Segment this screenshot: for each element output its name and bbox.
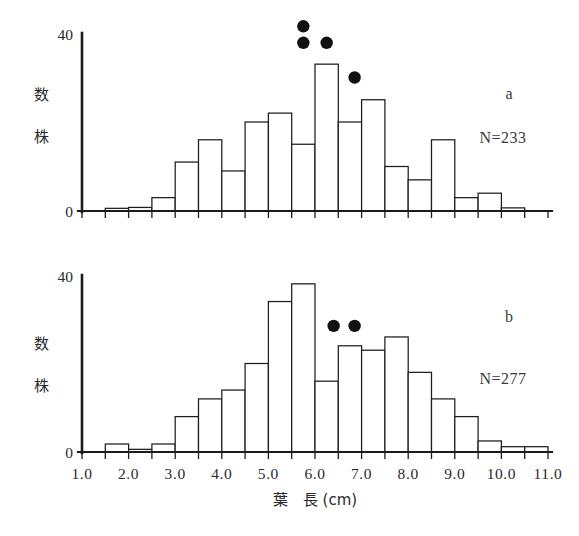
bars-group [105, 64, 524, 211]
chart-panel-a: 数 株 040aN=233 [0, 0, 579, 250]
histogram-bar [385, 167, 408, 212]
histogram-bar [152, 444, 175, 452]
histogram-bar [222, 390, 245, 452]
dot-marker [327, 320, 339, 332]
histogram-bar [245, 364, 268, 453]
histogram-bar [432, 399, 455, 452]
chart-svg-b: 040bN=2771.02.03.04.05.06.07.08.09.010.0… [0, 252, 579, 536]
histogram-bar [245, 122, 268, 211]
x-tick-label: 2.0 [118, 465, 139, 482]
histogram-bar [432, 140, 455, 211]
x-tick-label: 9.0 [444, 465, 465, 482]
x-tick-label: 1.0 [71, 465, 92, 482]
histogram-bar [338, 346, 361, 452]
histogram-bar [362, 100, 385, 211]
histogram-bar [315, 381, 338, 452]
dot-marker [297, 20, 309, 32]
sample-size-label: N=277 [479, 370, 526, 387]
histogram-bar [408, 372, 431, 452]
x-tick-label: 4.0 [211, 465, 232, 482]
histogram-bar [199, 399, 222, 452]
histogram-bar [175, 162, 198, 211]
y-tick-label-40: 40 [58, 26, 74, 43]
bars-group [105, 284, 548, 452]
x-axis-labels: 1.02.03.04.05.06.07.08.09.010.011.0 [71, 465, 562, 482]
dot-marker [348, 71, 360, 83]
histogram-bar [478, 193, 501, 211]
histogram-bar [292, 284, 315, 452]
y-tick-label-0: 0 [65, 444, 73, 461]
y-tick-label-0: 0 [65, 203, 73, 220]
y-axis-title-spacer [30, 104, 52, 130]
histogram-bar [222, 171, 245, 211]
sample-size-label: N=233 [479, 129, 526, 146]
x-axis-ticks [82, 452, 548, 459]
panel-letter: a [505, 85, 512, 102]
x-tick-label: 7.0 [351, 465, 372, 482]
chart-svg-a: 040aN=233 [0, 0, 579, 250]
dot-marker [320, 37, 332, 49]
y-axis-title-b: 数 株 [30, 337, 52, 395]
x-tick-label: 8.0 [398, 465, 419, 482]
histogram-bar [478, 441, 501, 452]
histogram-bar [455, 417, 478, 452]
histogram-bar [199, 140, 222, 211]
histogram-bar [268, 113, 291, 211]
x-tick-label: 10.0 [487, 465, 517, 482]
histogram-bar [315, 64, 338, 211]
chart-panel-b: 数 株 040bN=2771.02.03.04.05.06.07.08.09.0… [0, 252, 579, 536]
histogram-bar [408, 180, 431, 211]
dot-marker [348, 320, 360, 332]
y-axis-title-char-1: 株 [30, 130, 52, 146]
histogram-bar [152, 198, 175, 211]
y-axis-title-spacer [30, 353, 52, 379]
figure-histograms: 数 株 040aN=233 数 株 040bN=2771.02.03.04.05… [0, 0, 579, 536]
y-tick-label-40: 40 [58, 268, 74, 285]
x-axis-ticks [82, 211, 548, 218]
dot-markers-group [327, 320, 360, 332]
x-tick-label: 6.0 [304, 465, 325, 482]
histogram-bar [455, 198, 478, 211]
y-axis-title-char-0: 数 [30, 337, 52, 353]
histogram-bar [385, 337, 408, 452]
dot-marker [297, 37, 309, 49]
x-tick-label: 11.0 [534, 465, 563, 482]
x-tick-label: 5.0 [258, 465, 279, 482]
histogram-bar [338, 122, 361, 211]
y-axis-title-a: 数 株 [30, 88, 52, 146]
y-axis-title-char-1: 株 [30, 379, 52, 395]
histogram-bar [175, 417, 198, 452]
x-tick-label: 3.0 [165, 465, 186, 482]
x-axis-title: 葉 長 (cm) [273, 491, 357, 509]
histogram-bar [362, 350, 385, 452]
y-axis-title-char-0: 数 [30, 88, 52, 104]
histogram-bar [268, 302, 291, 452]
panel-letter: b [505, 308, 513, 325]
histogram-bar [105, 444, 128, 452]
histogram-bar [292, 144, 315, 211]
